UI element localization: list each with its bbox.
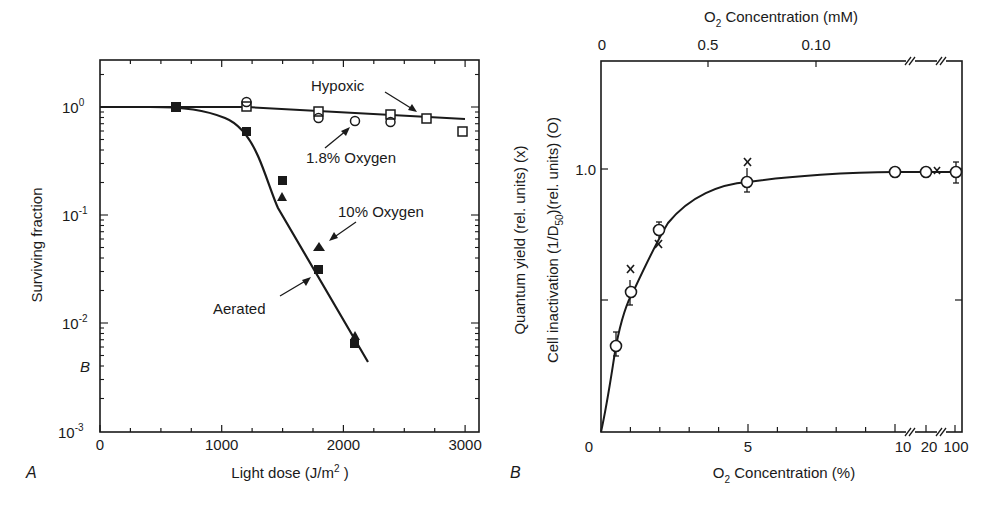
figure: 100 10-1 10-2 10-3 0 1000 2000 3000 Surv… — [0, 0, 992, 507]
svg-text:2000: 2000 — [327, 436, 360, 453]
panel-a: 100 10-1 10-2 10-3 0 1000 2000 3000 Surv… — [25, 60, 482, 481]
svg-text:Aerated: Aerated — [213, 300, 266, 317]
panel-b-top-tick-labels: 0 0.5 0.10 — [598, 36, 831, 53]
panel-b-label: B — [510, 464, 521, 481]
svg-text:0.10: 0.10 — [801, 36, 830, 53]
svg-text:3000: 3000 — [448, 436, 481, 453]
panel-b: O2 Concentration (mM) 0 0.5 0.10 0 5 10 … — [510, 8, 969, 485]
hypoxic-series — [242, 102, 467, 136]
svg-text:20: 20 — [921, 438, 938, 455]
svg-text:1.8% Oxygen: 1.8% Oxygen — [306, 149, 396, 166]
panel-a-stray-label: B — [80, 358, 90, 375]
panel-a-label: A — [25, 464, 37, 481]
saturation-fit-curve — [601, 172, 958, 432]
axis-break-icon — [905, 57, 946, 436]
panel-b-x-ticks — [630, 61, 955, 432]
svg-text:100: 100 — [943, 438, 968, 455]
cell-inactivation-series — [611, 167, 962, 352]
panel-b-y-axis-title-inner: Cell inactivation (1/D50)(rel. units) (O… — [544, 117, 565, 363]
panel-a-x-axis-title: Light dose (J/m2 ) — [231, 463, 348, 481]
svg-text:10-2: 10-2 — [62, 313, 88, 332]
panel-a-x-tick-labels: 0 1000 2000 3000 — [96, 436, 482, 453]
panel-a-y-axis-title: Surviving fraction — [28, 187, 45, 302]
svg-text:0: 0 — [598, 36, 606, 53]
svg-text:0: 0 — [585, 438, 593, 455]
svg-text:0: 0 — [96, 436, 104, 453]
panel-b-x-tick-labels: 0 5 10 20 100 — [585, 438, 969, 455]
svg-text:10: 10 — [895, 438, 912, 455]
svg-text:100: 100 — [62, 97, 85, 116]
svg-text:10% Oxygen: 10% Oxygen — [338, 203, 424, 220]
svg-text:5: 5 — [744, 438, 752, 455]
svg-text:1000: 1000 — [205, 436, 238, 453]
svg-text:Hypoxic: Hypoxic — [311, 77, 365, 94]
svg-text:10-1: 10-1 — [62, 205, 88, 224]
panel-b-x-axis-title: O2 Concentration (%) — [713, 464, 855, 485]
panel-b-top-axis-title: O2 Concentration (mM) — [704, 8, 858, 29]
svg-text:0.5: 0.5 — [698, 36, 719, 53]
panel-b-y-axis-title-outer: Quantum yield (rel. units) (x) — [511, 145, 528, 334]
panel-b-y-tick-label: 1.0 — [575, 161, 596, 178]
error-bars — [613, 162, 959, 356]
svg-text:10-3: 10-3 — [58, 422, 84, 441]
panel-a-y-tick-labels: 100 10-1 10-2 10-3 — [58, 97, 88, 441]
